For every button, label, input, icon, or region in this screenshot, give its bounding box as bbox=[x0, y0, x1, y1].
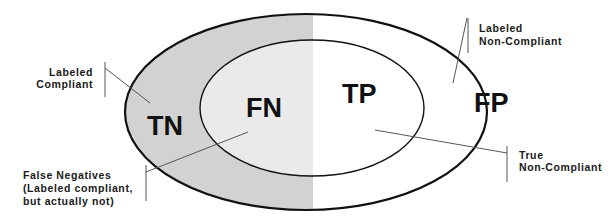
callout-text-line: True bbox=[519, 149, 544, 161]
callout-text-line: Labeled bbox=[49, 66, 93, 78]
region-label-fp: FP bbox=[474, 88, 509, 118]
callout-labeled-compliant: Labeled Compliant bbox=[36, 66, 93, 90]
callout-text-line: Non-Compliant bbox=[479, 35, 562, 47]
confusion-venn-diagram: TN FN TP FP Labeled Compliant False Nega… bbox=[0, 0, 614, 222]
callout-text-line: Non-Compliant bbox=[519, 161, 602, 173]
region-label-tp: TP bbox=[342, 79, 377, 109]
callout-text-line: Labeled bbox=[479, 22, 523, 34]
callout-text-line: Compliant bbox=[36, 78, 93, 90]
region-label-fn: FN bbox=[246, 93, 282, 123]
region-label-tn: TN bbox=[147, 111, 183, 141]
callout-text-line: but actually not) bbox=[23, 195, 114, 207]
callout-true-non-compliant: True Non-Compliant bbox=[519, 149, 602, 173]
callout-false-negatives: False Negatives (Labeled compliant, but … bbox=[23, 169, 133, 207]
callout-text-line: (Labeled compliant, bbox=[23, 182, 133, 194]
callout-text-line: False Negatives bbox=[23, 169, 111, 181]
callout-labeled-non-compliant: Labeled Non-Compliant bbox=[479, 22, 562, 47]
